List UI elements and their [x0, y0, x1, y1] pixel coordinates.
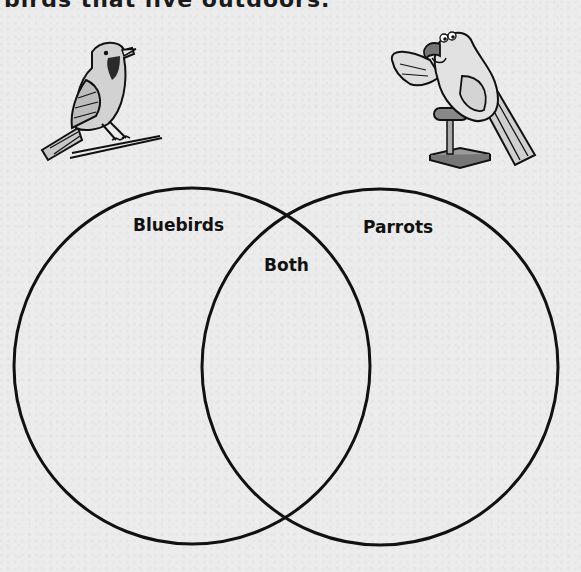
venn-diagram: [0, 0, 581, 572]
parrots-label: Parrots: [363, 217, 433, 237]
parrots-circle: [202, 189, 558, 545]
bluebirds-circle: [14, 188, 370, 544]
bluebirds-label: Bluebirds: [133, 215, 224, 235]
both-label: Both: [264, 255, 309, 275]
